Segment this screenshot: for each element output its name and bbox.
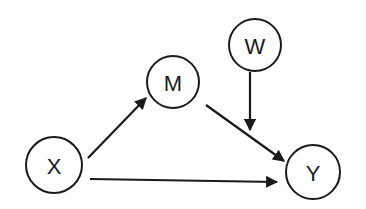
path-diagram: X M W Y bbox=[0, 0, 366, 209]
edge-m-to-y bbox=[206, 105, 284, 161]
node-y: Y bbox=[286, 145, 340, 199]
edge-x-to-m bbox=[88, 98, 146, 158]
node-w: W bbox=[229, 19, 281, 71]
node-x-label: X bbox=[47, 154, 62, 179]
edge-x-to-y bbox=[90, 179, 277, 182]
node-w-label: W bbox=[245, 34, 266, 59]
node-m: M bbox=[147, 56, 199, 108]
node-x: X bbox=[26, 137, 82, 193]
node-m-label: M bbox=[164, 71, 182, 96]
node-y-label: Y bbox=[306, 161, 321, 186]
